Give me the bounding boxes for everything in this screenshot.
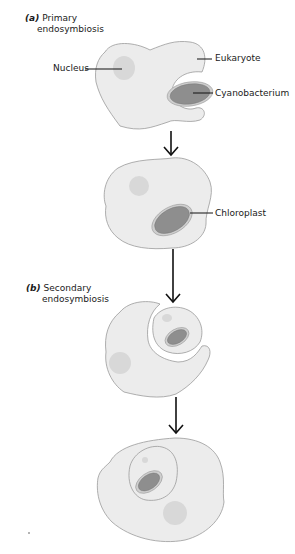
arrow-2-icon (166, 249, 180, 302)
host-nucleus (163, 501, 187, 525)
label-cyanobacterium: Cyanobacterium (215, 88, 289, 99)
section-b-title: (b) Secondary endosymbiosis (26, 283, 109, 305)
stage-3-secondary-engulfing (106, 302, 210, 397)
section-a-line1: Primary (42, 13, 77, 23)
nucleus (129, 176, 149, 196)
section-a-line2: endosymbiosis (25, 24, 104, 34)
stage-2-photosynthetic-eukaryote (104, 158, 211, 249)
nucleus (113, 56, 135, 80)
host-nucleus (109, 352, 131, 374)
stage-1-eukaryote-engulfing (95, 41, 214, 128)
section-b-letter: (b) (26, 283, 41, 293)
section-a-letter: (a) (25, 13, 39, 23)
nucleomorph (142, 457, 148, 463)
section-b-line2: endosymbiosis (26, 294, 109, 304)
stage-4-secondary-endosymbiont (97, 438, 224, 542)
stray-dot (28, 532, 30, 534)
endosymbiosis-diagram (0, 0, 295, 554)
algal-nucleus (162, 314, 172, 322)
label-eukaryote: Eukaryote (215, 53, 261, 64)
label-nucleus: Nucleus (53, 63, 89, 74)
arrow-1-icon (164, 131, 178, 155)
section-b-line1: Secondary (44, 283, 92, 293)
label-chloroplast: Chloroplast (215, 208, 266, 219)
section-a-title: (a) Primary endosymbiosis (25, 13, 104, 35)
arrow-3-icon (169, 397, 183, 433)
